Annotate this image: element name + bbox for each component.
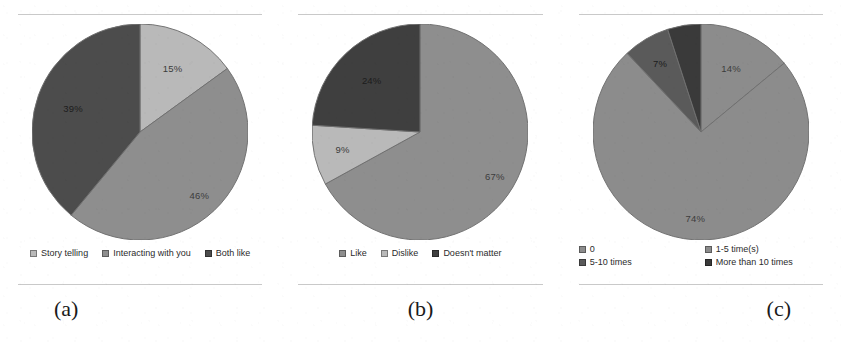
legend-swatch-icon — [579, 246, 586, 253]
pie-graphic-c: 14%74%7% — [593, 24, 809, 240]
legend-swatch-icon — [579, 259, 586, 266]
legend-item-label: More than 10 times — [716, 257, 793, 267]
legend-swatch-icon — [30, 250, 37, 257]
legend-swatch-icon — [205, 250, 212, 257]
legend-item: Doesn't matter — [432, 248, 501, 258]
legend-swatch-icon — [705, 246, 712, 253]
legend-item-label: Doesn't matter — [443, 248, 501, 258]
panel-caption-c: (c) — [639, 296, 841, 322]
legend-swatch-icon — [432, 250, 439, 257]
legend-swatch-icon — [102, 250, 109, 257]
legend-item: Interacting with you — [102, 248, 191, 258]
legend-item-label: Dislike — [392, 248, 419, 258]
panel-caption-a: (a) — [0, 296, 206, 322]
legend-item: More than 10 times — [705, 257, 793, 267]
figure-panel-a: 15%46%39% Story tellingInteracting with … — [0, 0, 280, 342]
pie-slice-value-label: 14% — [721, 62, 741, 73]
pie-slice-value-label: 46% — [189, 189, 209, 200]
pie-graphic-a: 15%46%39% — [32, 24, 248, 240]
panel-caption-b: (b) — [280, 296, 560, 322]
legend-item: Story telling — [30, 248, 88, 258]
legend-c: 01-5 time(s)5-10 timesMore than 10 times — [571, 244, 831, 268]
pie-slice-value-label: 24% — [362, 75, 382, 86]
legend-item: Both like — [205, 248, 251, 258]
legend-item-label: 5-10 times — [590, 257, 632, 267]
pie-slice-value-label: 67% — [485, 170, 505, 181]
figure-panel-b: 67%9%24% LikeDislikeDoesn't matter (b) — [280, 0, 560, 342]
scan-rule-bottom-b — [298, 284, 542, 285]
pie-slice-value-label: 9% — [335, 144, 349, 155]
scan-rule-top-b — [298, 14, 542, 15]
legend-item: 0 — [579, 244, 595, 254]
scan-rule-top-a — [18, 14, 262, 15]
legend-item: 5-10 times — [579, 257, 632, 267]
legend-item: Like — [339, 248, 367, 258]
legend-item-label: 0 — [590, 244, 595, 254]
legend-a: Story tellingInteracting with youBoth li… — [10, 248, 270, 258]
pie-chart-b: 67%9%24% — [280, 22, 560, 242]
pie-graphic-b: 67%9%24% — [312, 24, 528, 240]
scan-rule-top-c — [579, 14, 823, 15]
pie-slices-group — [312, 24, 528, 240]
pie-chart-a: 15%46%39% — [0, 22, 280, 242]
legend-item-label: Like — [350, 248, 367, 258]
legend-swatch-icon — [339, 250, 346, 257]
pie-chart-c: 14%74%7% — [561, 22, 841, 242]
pie-slice-value-label: 39% — [63, 102, 83, 113]
legend-swatch-icon — [381, 250, 388, 257]
legend-swatch-icon — [705, 259, 712, 266]
legend-item-label: Interacting with you — [113, 248, 191, 258]
figure-panel-c: 14%74%7% 01-5 time(s)5-10 timesMore than… — [561, 0, 841, 342]
scan-rule-bottom-a — [18, 284, 262, 285]
pie-slice-value-label: 15% — [163, 63, 183, 74]
pie-slices-group — [32, 24, 248, 240]
legend-item-label: Both like — [216, 248, 251, 258]
legend-item-label: Story telling — [41, 248, 88, 258]
legend-b: LikeDislikeDoesn't matter — [290, 248, 550, 258]
pie-slices-group — [593, 24, 809, 240]
legend-item-label: 1-5 time(s) — [716, 244, 759, 254]
figure-panel-row: 15%46%39% Story tellingInteracting with … — [0, 0, 841, 342]
legend-item: Dislike — [381, 248, 419, 258]
pie-slice-value-label: 74% — [686, 213, 706, 224]
scan-rule-bottom-c — [579, 284, 823, 285]
legend-item: 1-5 time(s) — [705, 244, 759, 254]
pie-slice-value-label: 7% — [653, 58, 667, 69]
